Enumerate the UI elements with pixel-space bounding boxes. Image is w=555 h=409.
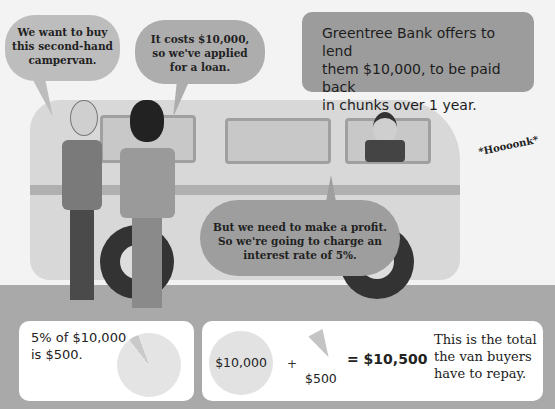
interest-calculation-text: 5% of $10,000 is $500.: [31, 329, 126, 363]
buyer-woman: [62, 100, 102, 300]
principal-amount: $10,000: [209, 355, 273, 370]
plus-sign: +: [287, 357, 297, 371]
total-description: This is the total the van buyers have to…: [434, 331, 537, 382]
text-line: is $500.: [31, 346, 126, 363]
bubble-line: It costs $10,000,: [135, 32, 265, 46]
bubble-line: But we need to make a profit.: [200, 220, 400, 234]
narration-box: Greentree Bank offers to lend them $10,0…: [302, 12, 534, 92]
head: [130, 100, 164, 142]
total-amount: = $10,500: [347, 351, 427, 367]
bubble-line: for a loan.: [135, 60, 265, 74]
speech-bubble-buyer1: We want to buy this second-hand camperva…: [5, 15, 120, 81]
text-line: This is the total: [434, 331, 537, 348]
legs: [132, 218, 162, 308]
banker-driver: [365, 112, 405, 162]
van-window: [225, 118, 331, 164]
interest-amount: $500: [305, 371, 337, 386]
bubble-line: so we've applied: [135, 46, 265, 60]
narration-line: them $10,000, to be paid back: [322, 60, 514, 96]
legs: [70, 210, 94, 300]
principal-circle: $10,000: [209, 331, 273, 395]
torso: [365, 140, 405, 162]
torso: [120, 148, 175, 218]
bubble-line: interest rate of 5%.: [200, 248, 400, 262]
speech-bubble-banker: But we need to make a profit. So we're g…: [200, 200, 400, 276]
speech-bubble-buyer2: It costs $10,000, so we've applied for a…: [135, 20, 265, 84]
text-line: the van buyers: [434, 348, 537, 365]
narration-line: Greentree Bank offers to lend: [322, 24, 514, 60]
text-line: have to repay.: [434, 365, 537, 382]
buyer-man: [120, 100, 175, 310]
bubble-line: this second-hand: [5, 39, 120, 53]
bubble-line: So we're going to charge an: [200, 234, 400, 248]
bubble-line: We want to buy: [5, 25, 120, 39]
text-line: 5% of $10,000: [31, 329, 126, 346]
narration-line: in chunks over 1 year.: [322, 96, 514, 114]
bubble-line: campervan.: [5, 53, 120, 67]
illustration-scene: We want to buy this second-hand camperva…: [0, 0, 555, 409]
interest-wedge: [308, 329, 335, 361]
total-repayment-panel: $10,000 + $500 = $10,500 This is the tot…: [202, 321, 543, 401]
torso: [62, 140, 102, 210]
head: [70, 100, 98, 136]
interest-calculation-panel: 5% of $10,000 is $500.: [19, 321, 194, 401]
